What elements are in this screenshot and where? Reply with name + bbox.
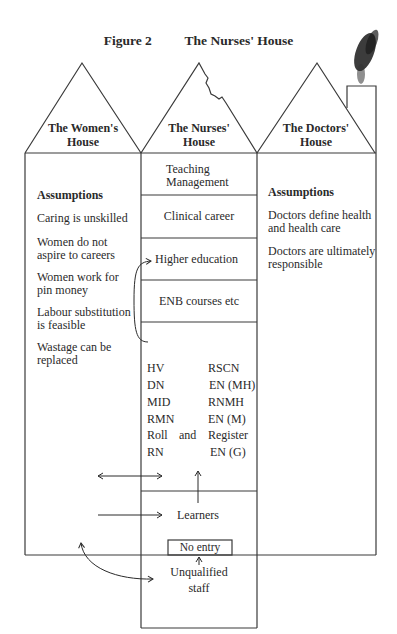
women-assumption-4: Labour substitution is feasible (37, 306, 131, 332)
chimney-smoke (350, 28, 381, 84)
qualification: RN (147, 446, 164, 459)
qualification: MID (147, 396, 170, 409)
assumption-line: aspire to careers (37, 249, 115, 262)
unqualified-line2: staff (141, 582, 257, 595)
qualification-connector: and (179, 429, 196, 442)
qualification: RNMH (208, 396, 244, 409)
learners-label: Learners (177, 509, 219, 522)
doctors-assumption-2: Doctors are ultimately responsible (268, 245, 375, 271)
qualification: HV (147, 362, 164, 375)
floor-enb-courses: ENB courses etc (141, 295, 257, 308)
assumption-line: Caring is unskilled (37, 212, 128, 225)
qualification: EN (MH) (209, 379, 255, 392)
floor-higher-education: Higher education (155, 253, 238, 266)
qualification: RSCN (208, 362, 239, 375)
assumption-line: responsible (268, 258, 375, 271)
assumption-line: replaced (37, 354, 111, 367)
nurses-house-label: The Nurses' House (141, 122, 257, 149)
doctors-house-label-line2: House (257, 136, 375, 149)
nurses-house-label-line2: House (141, 136, 257, 149)
qualification: EN (M) (208, 413, 246, 426)
qualification: Roll (147, 429, 168, 442)
doctors-assumptions-heading: Assumptions (268, 186, 334, 199)
floor-clinical-career: Clinical career (141, 210, 257, 223)
doctors-house-label: The Doctors' House (257, 122, 375, 149)
doctors-assumption-1: Doctors define health and health care (268, 209, 371, 235)
nurses-house-label-line1: The Nurses' (141, 122, 257, 135)
qualification: DN (147, 379, 164, 392)
qualification: Register (208, 429, 248, 442)
assumption-line: pin money (37, 284, 119, 297)
women-assumption-3: Women work for pin money (37, 271, 119, 297)
women-assumption-2: Women do not aspire to careers (37, 236, 115, 262)
unqualified-line1: Unqualified (141, 566, 257, 579)
women-assumption-1: Caring is unskilled (37, 212, 128, 225)
doctors-house-label-line1: The Doctors' (257, 122, 375, 135)
unqualified-staff-label: Unqualified staff (141, 566, 257, 595)
floor-teaching-management: Teaching Management (166, 163, 229, 189)
women-house-label-line2: House (25, 136, 141, 149)
qualification: EN (G) (210, 446, 246, 459)
floor-label: Management (166, 176, 229, 189)
assumption-line: and health care (268, 222, 371, 235)
women-house-label-line1: The Women's (25, 122, 141, 135)
assumption-line: is feasible (37, 319, 131, 332)
women-assumption-5: Wastage can be replaced (37, 341, 111, 367)
no-entry-label: No entry (168, 541, 232, 554)
qualification: RMN (147, 413, 174, 426)
women-assumptions-heading: Assumptions (37, 189, 103, 202)
women-house-label: The Women's House (25, 122, 141, 149)
